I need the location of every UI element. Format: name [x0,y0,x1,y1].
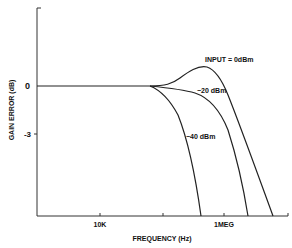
curve-minus40dbm [150,86,201,216]
curves [37,67,273,216]
gain-error-chart: 0 -3 10K 1MEG GAIN ERROR (dB) FREQUENCY … [0,0,292,248]
axes [34,8,288,216]
y-tick-label-0: 0 [25,81,30,91]
x-axis-title: FREQUENCY (Hz) [133,235,192,243]
y-tick-label-minus3: -3 [24,130,32,139]
annotation-minus20dbm: −20 dBm [197,87,226,94]
x-tick-label-1meg: 1MEG [214,221,234,228]
curve-minus20dbm [150,86,248,216]
y-axis-title: GAIN ERROR (dB) [8,80,16,141]
annotation-0dbm: INPUT = 0dBm [205,56,253,63]
annotation-minus40dbm: −40 dBm [186,133,215,140]
x-tick-label-10k: 10K [94,221,107,228]
